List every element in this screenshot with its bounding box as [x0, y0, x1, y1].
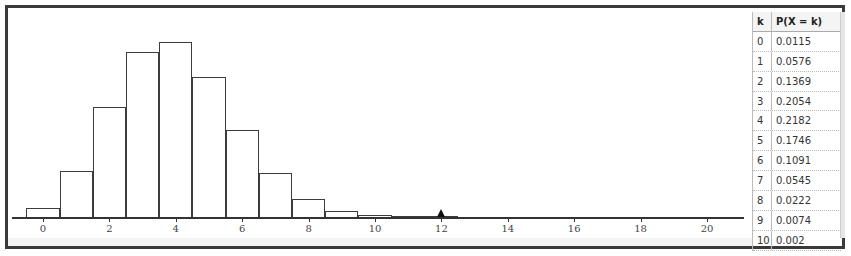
- histogram-bar: [93, 107, 126, 217]
- histogram-bar: [126, 52, 159, 217]
- table-scrollbar[interactable]: [840, 12, 845, 238]
- histogram-bar: [159, 42, 192, 217]
- x-tick-label: 8: [305, 223, 311, 234]
- x-tick: [574, 217, 575, 222]
- x-tick: [508, 217, 509, 222]
- table-row[interactable]: 100.002: [753, 231, 841, 251]
- cell-probability: 0.2182: [772, 111, 841, 130]
- histogram-bar: [26, 208, 59, 217]
- table-row[interactable]: 20.1369: [753, 72, 841, 92]
- x-tick-label: 14: [501, 223, 514, 234]
- probability-histogram: 02468101214161820: [8, 8, 752, 246]
- histogram-bar: [226, 130, 259, 217]
- probability-table: k P(X = k) 00.011510.057620.136930.20544…: [752, 12, 841, 251]
- x-tick: [641, 217, 642, 222]
- cell-k: 8: [753, 191, 772, 210]
- cell-probability: 0.0545: [772, 171, 841, 190]
- cell-probability: 0.0576: [772, 52, 841, 71]
- table-row[interactable]: 30.2054: [753, 92, 841, 112]
- histogram-bar: [392, 216, 425, 217]
- cell-probability: 0.1746: [772, 131, 841, 150]
- x-tick: [441, 217, 442, 222]
- cell-probability: 0.0074: [772, 211, 841, 230]
- x-tick-label: 18: [634, 223, 647, 234]
- cell-k: 6: [753, 151, 772, 170]
- triangle-marker-icon[interactable]: [437, 209, 445, 217]
- x-tick-label: 6: [239, 223, 245, 234]
- table-row[interactable]: 60.1091: [753, 151, 841, 171]
- histogram-bar: [60, 171, 93, 217]
- cell-probability: 0.0115: [772, 32, 841, 51]
- x-tick: [109, 217, 110, 222]
- table-row[interactable]: 70.0545: [753, 171, 841, 191]
- cell-k: 7: [753, 171, 772, 190]
- cell-k: 3: [753, 92, 772, 111]
- x-tick: [43, 217, 44, 222]
- table-header-row: k P(X = k): [753, 12, 841, 32]
- cell-k: 2: [753, 72, 772, 91]
- cell-probability: 0.1369: [772, 72, 841, 91]
- x-tick-label: 2: [106, 223, 112, 234]
- x-tick-label: 0: [40, 223, 46, 234]
- x-tick-label: 12: [435, 223, 448, 234]
- x-tick: [707, 217, 708, 222]
- bottom-strip: [8, 238, 752, 246]
- table-row[interactable]: 10.0576: [753, 52, 841, 72]
- cell-probability: 0.0222: [772, 191, 841, 210]
- x-tick-label: 20: [701, 223, 714, 234]
- table-row[interactable]: 80.0222: [753, 191, 841, 211]
- x-tick-label: 16: [568, 223, 581, 234]
- cell-k: 0: [753, 32, 772, 51]
- histogram-bar: [192, 77, 225, 217]
- x-tick: [309, 217, 310, 222]
- cell-k: 10: [753, 231, 772, 250]
- cell-k: 4: [753, 111, 772, 130]
- header-k: k: [753, 12, 772, 31]
- x-tick-label: 10: [369, 223, 382, 234]
- table-row[interactable]: 90.0074: [753, 211, 841, 231]
- cell-probability: 0.002: [772, 231, 841, 250]
- x-tick: [242, 217, 243, 222]
- cell-k: 5: [753, 131, 772, 150]
- x-axis: [12, 217, 744, 219]
- cell-probability: 0.1091: [772, 151, 841, 170]
- distribution-panel: 02468101214161820 k P(X = k) 00.011510.0…: [5, 5, 845, 249]
- header-probability: P(X = k): [772, 12, 841, 31]
- histogram-bar: [259, 173, 292, 217]
- table-row[interactable]: 40.2182: [753, 111, 841, 131]
- x-tick: [375, 217, 376, 222]
- x-tick-label: 4: [173, 223, 179, 234]
- x-tick: [176, 217, 177, 222]
- histogram-bar: [325, 211, 358, 217]
- table-row[interactable]: 50.1746: [753, 131, 841, 151]
- cell-k: 1: [753, 52, 772, 71]
- histogram-bar: [292, 199, 325, 217]
- cell-k: 9: [753, 211, 772, 230]
- table-row[interactable]: 00.0115: [753, 32, 841, 52]
- cell-probability: 0.2054: [772, 92, 841, 111]
